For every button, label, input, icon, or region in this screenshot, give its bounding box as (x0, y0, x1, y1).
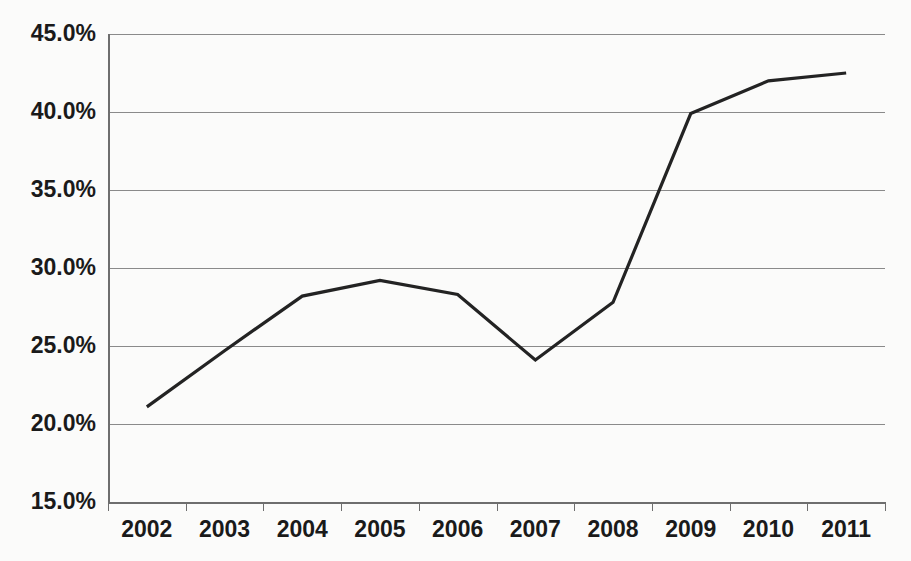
y-tick-label: 25.0% (31, 332, 96, 358)
x-tick-label: 2006 (432, 516, 483, 542)
y-tick-label: 15.0% (31, 488, 96, 514)
y-tick-label: 20.0% (31, 410, 96, 436)
x-tick-label: 2009 (665, 516, 716, 542)
y-tick-label: 35.0% (31, 176, 96, 202)
x-tick-label: 2002 (121, 516, 172, 542)
y-tick-label: 40.0% (31, 98, 96, 124)
x-tick-label: 2011 (821, 516, 871, 542)
x-tick-label: 2010 (743, 516, 794, 542)
figure-background (0, 0, 911, 561)
x-tick-label: 2004 (277, 516, 328, 542)
x-tick-label: 2007 (510, 516, 561, 542)
y-tick-label: 45.0% (31, 20, 96, 46)
y-tick-label: 30.0% (31, 254, 96, 280)
chart-canvas: 15.0%20.0%25.0%30.0%35.0%40.0%45.0% 2002… (0, 0, 911, 561)
line-chart-figure: 15.0%20.0%25.0%30.0%35.0%40.0%45.0% 2002… (0, 0, 911, 561)
x-tick-label: 2008 (587, 516, 638, 542)
x-tick-label: 2003 (199, 516, 250, 542)
x-tick-label: 2005 (354, 516, 405, 542)
